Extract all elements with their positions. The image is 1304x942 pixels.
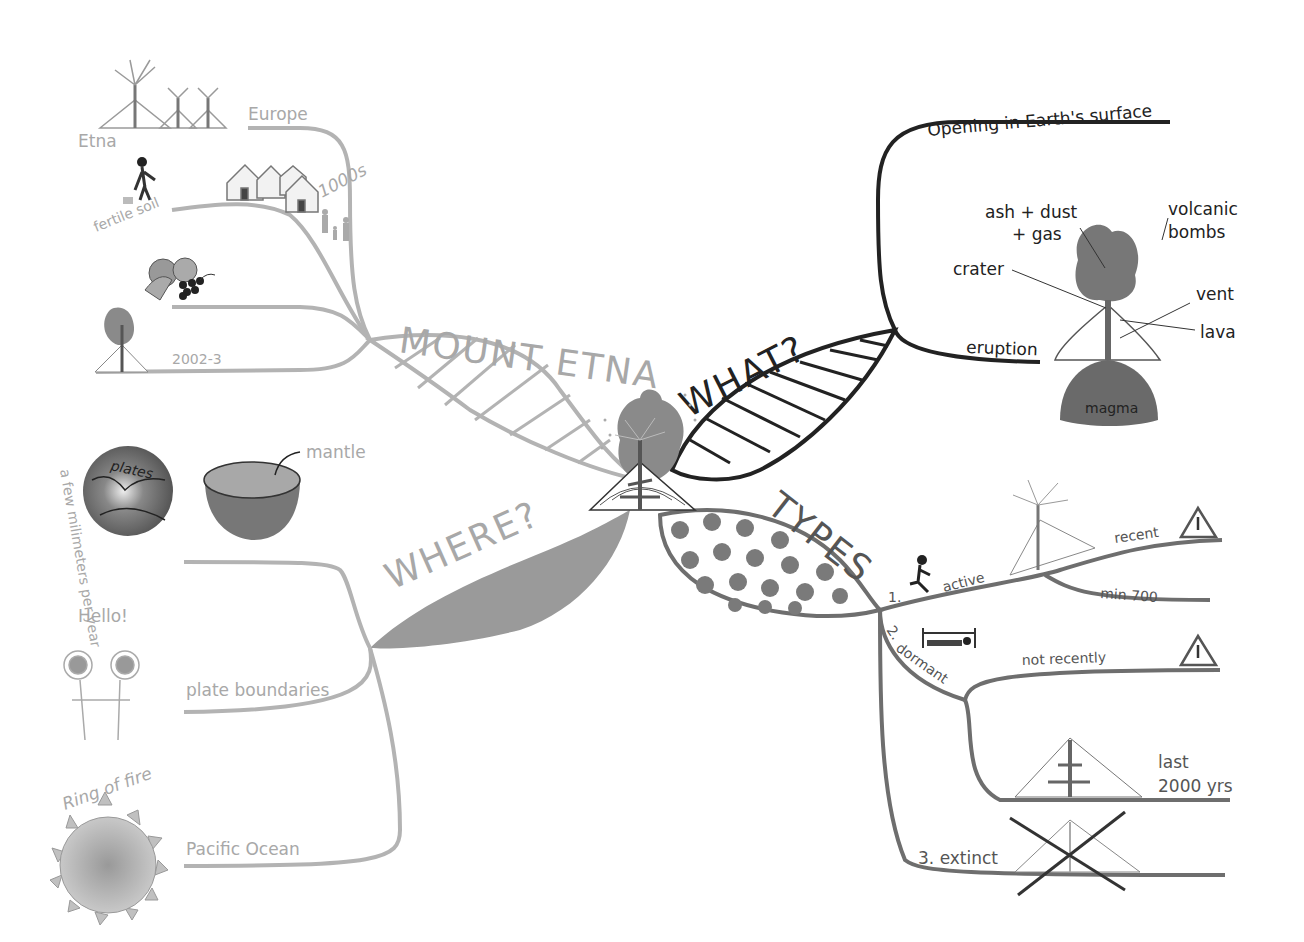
extinct-volcano-icon [1010, 812, 1140, 895]
label-vent: vent [1196, 284, 1234, 304]
branch-mount-etna [96, 128, 640, 480]
mantle-icon [204, 452, 300, 540]
label-crater: crater [953, 259, 1004, 279]
label-1000s: 1000s [314, 159, 370, 201]
label-opening: Opening in Earth's surface [927, 100, 1153, 140]
label-lava: lava [1200, 322, 1236, 342]
running-person-icon [910, 555, 930, 592]
label-ash-dust: ash + dust [985, 202, 1078, 222]
volcano-diagram [1012, 218, 1195, 426]
label-magma: magma [1085, 400, 1138, 416]
branch-types [660, 510, 1230, 875]
label-last: last [1158, 752, 1189, 772]
erupting-volcano-icon [95, 308, 148, 372]
fruit-icon [145, 258, 215, 300]
branch-what [672, 122, 1170, 479]
warning-icon-recent [1181, 508, 1216, 537]
label-volcanic: volcanic [1168, 199, 1238, 219]
label-2000-yrs: 2000 yrs [1158, 776, 1233, 796]
dormant-volcano-icon [1015, 738, 1142, 797]
label-min-700: min 700 [1100, 585, 1159, 605]
active-volcano-icon [1010, 480, 1095, 575]
label-gas: + gas [1012, 224, 1062, 244]
label-not-recently: not recently [1022, 649, 1107, 668]
etna-volcano-icons [100, 60, 226, 128]
sleeping-person-icon [922, 628, 976, 648]
label-2002-3: 2002-3 [172, 351, 222, 367]
label-pacific-ocean: Pacific Ocean [186, 839, 300, 859]
label-eruption: eruption [966, 337, 1038, 359]
label-ring-of-fire: Ring of fire [60, 763, 155, 814]
globe-plates-icon [83, 446, 173, 536]
label-extinct: 3. extinct [918, 848, 998, 868]
label-etna: Etna [78, 131, 117, 151]
warning-icon-not-recently [1181, 636, 1216, 665]
label-hello: Hello! [78, 606, 128, 626]
branch-label-what: WHAT? [673, 327, 812, 425]
friends-icon [64, 651, 139, 740]
label-plate-boundaries: plate boundaries [186, 680, 330, 700]
label-recent: recent [1113, 524, 1160, 546]
mind-map-canvas: MOUNT ETNA Europe Etna 1000s fertile soi… [0, 0, 1304, 942]
people-icon [322, 209, 349, 241]
label-europe: Europe [248, 104, 308, 124]
label-type-1-num: 1. [888, 589, 901, 605]
label-bombs: bombs [1168, 222, 1226, 242]
label-mantle: mantle [306, 442, 366, 462]
